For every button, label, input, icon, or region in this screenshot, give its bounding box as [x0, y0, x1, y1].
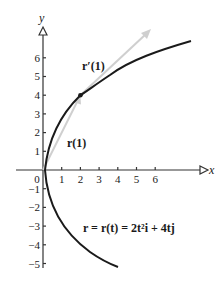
equation-label: r = r(t) = 2t²i + 4tj — [83, 221, 175, 235]
svg-text:5: 5 — [134, 173, 140, 185]
svg-text:2: 2 — [35, 126, 41, 138]
position-vector-label: r(1) — [67, 136, 86, 150]
svg-text:−1: −1 — [28, 183, 40, 195]
svg-text:−2: −2 — [28, 201, 40, 213]
position-vector — [43, 95, 81, 170]
parabola-diagram: x y 0 1 2 3 4 5 6 1 2 3 4 5 6 −1 −2 −3 −… — [0, 0, 224, 286]
svg-text:3: 3 — [96, 173, 102, 185]
point-marker — [78, 93, 83, 98]
svg-text:6: 6 — [35, 52, 41, 64]
y-axis-arrow-icon — [39, 27, 47, 35]
svg-text:5: 5 — [35, 70, 41, 82]
svg-text:−5: −5 — [28, 258, 40, 270]
x-axis-label: x — [208, 163, 215, 177]
svg-text:2: 2 — [78, 173, 84, 185]
svg-text:4: 4 — [115, 173, 121, 185]
svg-text:6: 6 — [152, 173, 158, 185]
y-tick-labels: 1 2 3 4 5 6 −1 −2 −3 −4 −5 — [28, 52, 40, 270]
x-tick-labels: 0 1 2 3 4 5 6 — [34, 173, 158, 185]
tangent-vector-label: r′(1) — [82, 59, 105, 73]
svg-text:−4: −4 — [28, 239, 40, 251]
x-axis-arrow-icon — [200, 166, 208, 174]
svg-text:3: 3 — [35, 108, 41, 120]
svg-text:1: 1 — [35, 145, 41, 157]
svg-text:1: 1 — [59, 173, 65, 185]
svg-text:−3: −3 — [28, 220, 40, 232]
y-axis-label: y — [38, 11, 45, 25]
svg-text:4: 4 — [35, 89, 41, 101]
